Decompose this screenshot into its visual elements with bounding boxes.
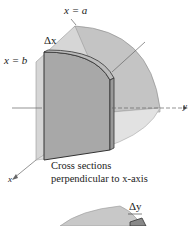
label-delta-x: Δx	[44, 34, 57, 46]
cross-section-slab	[44, 52, 110, 160]
label-y-axis: y	[183, 101, 187, 111]
solid-dome-bottom	[60, 206, 138, 226]
x-axis-arrow	[12, 174, 18, 180]
caption-line-1: Cross sections	[51, 160, 111, 172]
caption-line-2: perpendicular to x-axis	[51, 173, 148, 185]
cross-section-slab-side	[110, 78, 114, 150]
label-delta-y: Δy	[129, 200, 142, 212]
label-x-eq-b: x = b	[4, 54, 27, 66]
label-x-axis: x	[8, 174, 12, 184]
x-axis	[14, 160, 36, 178]
x-eq-a-pointer	[71, 19, 76, 25]
label-x-eq-a: x = a	[64, 4, 87, 16]
solid-diagram-top	[0, 0, 191, 226]
